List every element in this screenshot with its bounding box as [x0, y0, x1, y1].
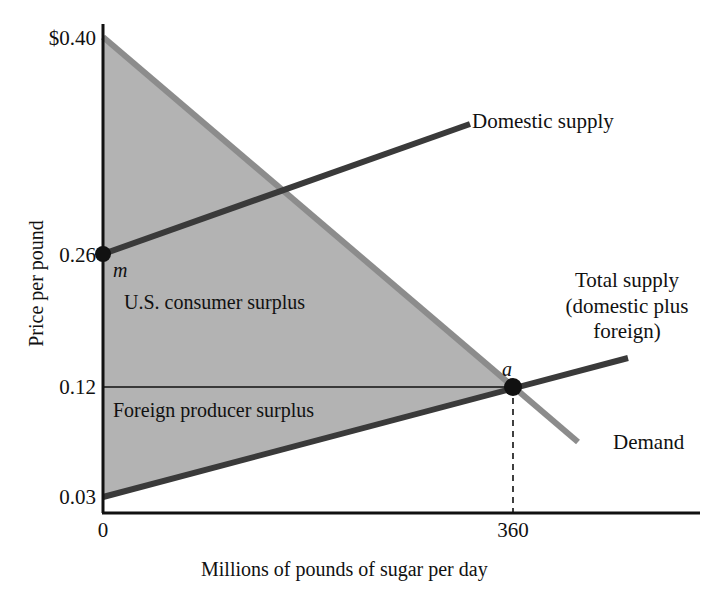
foreign-producer-surplus-label: Foreign producer surplus: [113, 399, 314, 422]
shaded-surplus-regions: [103, 37, 513, 497]
total-supply-label-line1: Total supply: [575, 268, 679, 292]
demand-label: Demand: [613, 430, 684, 454]
x-tick-label-360: 360: [478, 518, 548, 542]
sugar-market-chart: $0.40 0.26 0.12 0.03 0 360 Millions of p…: [0, 0, 715, 594]
point-a-label: a: [502, 358, 512, 381]
total-supply-label: Total supply(domestic plusforeign): [543, 268, 711, 345]
y-tick-label-003: 0.03: [24, 485, 96, 509]
y-axis-title: Price per pound: [25, 204, 48, 364]
y-tick-label-012: 0.12: [24, 375, 96, 399]
total-supply-label-line2: (domestic plus: [565, 294, 688, 318]
us-consumer-surplus-label: U.S. consumer surplus: [124, 291, 305, 314]
x-axis-title: Millions of pounds of sugar per day: [201, 558, 488, 581]
point-m-label: m: [113, 259, 127, 282]
total-supply-label-line3: foreign): [593, 319, 661, 343]
domestic-supply-label: Domestic supply: [472, 109, 614, 133]
x-tick-label-0: 0: [83, 518, 123, 542]
y-tick-label-040: $0.40: [24, 26, 96, 50]
point-m-marker: [95, 246, 111, 262]
